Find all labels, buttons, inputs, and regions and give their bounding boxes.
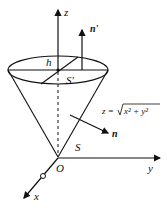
cone-side-left xyxy=(8,70,58,157)
equation-lhs: z = xyxy=(101,106,114,116)
normal-side-arrow xyxy=(70,115,108,133)
side-surface-label: S xyxy=(75,141,81,153)
top-surface-label: S' xyxy=(66,74,75,86)
height-label: h xyxy=(46,56,52,68)
center-point xyxy=(56,68,59,71)
y-axis-label: y xyxy=(147,162,153,174)
z-axis-label: z xyxy=(63,6,69,18)
normal-side-label: n xyxy=(112,128,118,139)
x-axis-label: x xyxy=(33,190,39,202)
cone-diagram: z n' h S' z = x² + y² n S O y x xyxy=(0,0,167,212)
x-axis-point xyxy=(41,174,46,179)
equation-rhs: x² + y² xyxy=(123,106,148,116)
normal-top-label: n' xyxy=(90,23,99,34)
origin-label: O xyxy=(56,162,64,174)
